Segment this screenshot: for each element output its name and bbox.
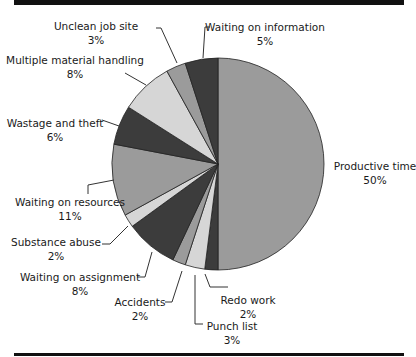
- pie-slice-productive-time: [218, 58, 324, 270]
- slice-value-multiple-material-handling: 8%: [67, 68, 84, 80]
- slice-value-substance-abuse: 2%: [48, 250, 65, 262]
- slice-label-waiting-on-assignment: Waiting on assignment: [20, 271, 140, 283]
- slice-value-waiting-on-resources: 11%: [58, 210, 81, 222]
- leader-line-waiting-on-resources: [88, 180, 114, 194]
- slice-value-redo-work: 2%: [240, 308, 257, 320]
- slice-label-punch-list: Punch list: [207, 320, 258, 332]
- leader-line-unclean-job-site: [156, 28, 177, 63]
- slice-value-accidents: 2%: [132, 310, 149, 322]
- pie-chart: Productive time50%Redo work2%Punch list3…: [0, 0, 416, 357]
- slice-label-unclean-job-site: Unclean job site: [54, 20, 138, 32]
- slice-value-unclean-job-site: 3%: [88, 34, 105, 46]
- top-rule: [14, 0, 404, 5]
- leader-line-accidents: [165, 271, 182, 302]
- slice-label-wastage-and-theft: Wastage and theft: [7, 117, 104, 129]
- slice-value-waiting-on-assignment: 8%: [72, 285, 89, 297]
- leader-line-wastage-and-theft: [102, 120, 119, 126]
- slice-value-waiting-on-information: 5%: [257, 35, 274, 47]
- slice-value-wastage-and-theft: 6%: [47, 131, 64, 143]
- bottom-rule: [14, 353, 404, 356]
- leader-line-multiple-material-handling: [125, 73, 146, 85]
- slice-label-redo-work: Redo work: [220, 294, 276, 306]
- slice-label-waiting-on-information: Waiting on information: [205, 21, 325, 33]
- slice-label-productive-time: Productive time: [334, 160, 416, 172]
- leader-line-redo-work: [205, 274, 228, 287]
- slice-value-punch-list: 3%: [224, 334, 241, 346]
- leader-line-punch-list: [195, 275, 203, 324]
- slice-label-accidents: Accidents: [115, 296, 166, 308]
- leader-line-substance-abuse: [102, 226, 128, 244]
- slice-label-substance-abuse: Substance abuse: [11, 236, 101, 248]
- slice-value-productive-time: 50%: [363, 174, 386, 186]
- slice-label-multiple-material-handling: Multiple material handling: [6, 54, 144, 66]
- slice-label-waiting-on-resources: Waiting on resources: [15, 196, 125, 208]
